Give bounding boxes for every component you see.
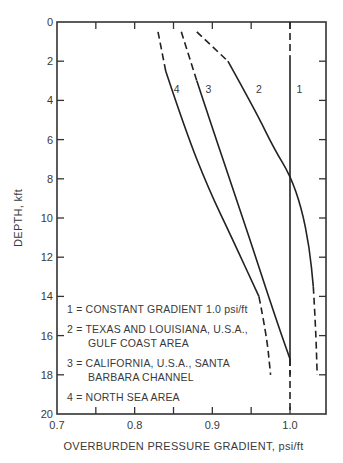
y-tick-label: 8 bbox=[47, 173, 53, 185]
legend-item-2: 2 = TEXAS AND LOUISIANA, U.S.A., bbox=[67, 323, 248, 335]
curve-labels: 1234 bbox=[174, 83, 303, 95]
curve-label-2: 2 bbox=[256, 83, 262, 95]
curve-3-dashed bbox=[181, 32, 197, 81]
curve-2-solid bbox=[228, 61, 313, 286]
y-tick-label: 6 bbox=[47, 134, 53, 146]
x-tick-label: 0.9 bbox=[205, 419, 220, 431]
legend-item-2-cont: GULF COAST AREA bbox=[88, 337, 189, 349]
y-tick-label: 2 bbox=[47, 55, 53, 67]
legend-item-4: 4 = NORTH SEA AREA bbox=[67, 391, 180, 403]
curve-2-dashed bbox=[197, 32, 228, 61]
curve-3-solid bbox=[197, 81, 290, 359]
legend-item-1: 1 = CONSTANT GRADIENT 1.0 psi/ft bbox=[67, 303, 248, 315]
legend-item-3-cont: BARBARA CHANNEL bbox=[88, 371, 194, 383]
x-tick-label: 1.0 bbox=[282, 419, 297, 431]
curve-4-dashed bbox=[158, 32, 166, 71]
y-tick-label: 12 bbox=[41, 251, 53, 263]
curve-4-dashed bbox=[259, 296, 271, 374]
curve-label-1: 1 bbox=[296, 83, 302, 95]
curve-label-4: 4 bbox=[174, 83, 180, 95]
y-axis-title: DEPTH, kft bbox=[12, 189, 24, 247]
legend: 1 = CONSTANT GRADIENT 1.0 psi/ft 2 = TEX… bbox=[67, 303, 248, 403]
x-tick-label: 0.7 bbox=[49, 419, 64, 431]
curve-4-solid bbox=[166, 71, 259, 296]
y-tick-label: 0 bbox=[47, 16, 53, 28]
plot-frame bbox=[57, 22, 326, 414]
depth-gradient-chart: 024681012141618200.70.80.91.0OVERBURDEN … bbox=[0, 0, 343, 463]
curves bbox=[158, 22, 317, 414]
y-tick-label: 10 bbox=[41, 212, 53, 224]
x-tick-label: 0.8 bbox=[127, 419, 142, 431]
legend-item-3: 3 = CALIFORNIA, U.S.A., SANTA bbox=[67, 357, 230, 369]
curve-label-3: 3 bbox=[206, 83, 212, 95]
y-tick-label: 4 bbox=[47, 94, 53, 106]
y-tick-label: 16 bbox=[41, 330, 53, 342]
y-tick-label: 18 bbox=[41, 369, 53, 381]
curve-2-dashed bbox=[313, 287, 317, 375]
x-axis-title: OVERBURDEN PRESSURE GRADIENT, psi/ft bbox=[63, 440, 303, 452]
y-tick-label: 14 bbox=[41, 290, 53, 302]
